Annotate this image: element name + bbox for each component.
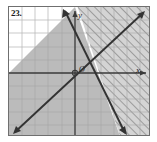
- origin-label: O: [79, 66, 85, 74]
- figure-container: 23. y x O: [0, 0, 157, 142]
- x-axis-label: x: [136, 66, 140, 75]
- figure-number-label: 23.: [11, 9, 22, 18]
- y-axis-label: y: [78, 11, 82, 20]
